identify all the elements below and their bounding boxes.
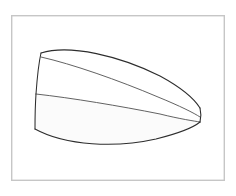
drawing-canvas: 3D wedge solid line drawing Hand-drawn w… [0, 0, 236, 196]
figure-svg: 3D wedge solid line drawing Hand-drawn w… [0, 0, 236, 196]
